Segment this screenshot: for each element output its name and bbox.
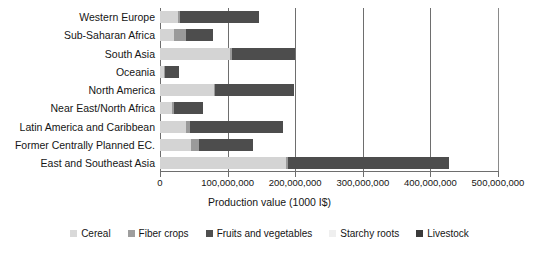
bar-stack bbox=[160, 29, 213, 41]
legend-item-cereal[interactable]: Cereal bbox=[70, 228, 110, 239]
bar-segment-cereal[interactable] bbox=[160, 121, 186, 133]
tick-label-500000000: 500,000,000 bbox=[472, 177, 525, 188]
bar-row[interactable] bbox=[160, 136, 498, 154]
category-label-north-america: North America bbox=[8, 81, 158, 99]
legend-item-fruits-and-vegetables[interactable]: Fruits and vegetables bbox=[206, 228, 313, 239]
legend-label-cereal: Cereal bbox=[81, 228, 110, 239]
category-label-sub-saharan-africa: Sub-Saharan Africa bbox=[8, 26, 158, 44]
x-axis-tick-labels: 0100,000,000200,000,000300,000,000400,00… bbox=[0, 177, 539, 191]
bar-stack bbox=[160, 157, 449, 169]
bar-segment-cereal[interactable] bbox=[160, 139, 191, 151]
tick-label-300000000: 300,000,000 bbox=[336, 177, 389, 188]
plot-area bbox=[160, 8, 498, 172]
bar-row[interactable] bbox=[160, 118, 498, 136]
gridline-500000000 bbox=[498, 8, 499, 172]
bar-segment-fruits-and-vegetables[interactable] bbox=[186, 29, 213, 41]
bar-segment-cereal[interactable] bbox=[160, 102, 172, 114]
category-label-near-east-north-africa: Near East/North Africa bbox=[8, 99, 158, 117]
legend-label-starchy-roots: Starchy roots bbox=[340, 228, 399, 239]
legend-swatch-livestock-icon bbox=[416, 230, 423, 237]
bar-segment-fruits-and-vegetables[interactable] bbox=[165, 66, 179, 78]
bar-segment-fruits-and-vegetables[interactable] bbox=[199, 139, 253, 151]
legend-item-livestock[interactable]: Livestock bbox=[416, 228, 469, 239]
chart-legend: Cereal Fiber crops Fruits and vegetables… bbox=[0, 228, 539, 239]
bar-segment-cereal[interactable] bbox=[160, 48, 230, 60]
legend-swatch-starchy-roots-icon bbox=[329, 230, 336, 237]
category-label-latin-america-and-caribbean: Latin America and Caribbean bbox=[8, 118, 158, 136]
bar-stack bbox=[160, 84, 294, 96]
category-label-western-europe: Western Europe bbox=[8, 8, 158, 26]
legend-item-fiber-crops[interactable]: Fiber crops bbox=[128, 228, 189, 239]
x-axis-title: Production value (1000 I$) bbox=[0, 196, 539, 208]
bar-stack bbox=[160, 102, 203, 114]
legend-label-livestock: Livestock bbox=[427, 228, 469, 239]
legend-swatch-fiber-crops-icon bbox=[128, 230, 135, 237]
category-label-east-and-southeast-asia: East and Southeast Asia bbox=[8, 154, 158, 172]
category-axis-labels: Western Europe Sub-Saharan Africa South … bbox=[8, 8, 158, 172]
bar-stack bbox=[160, 11, 259, 23]
bar-stack bbox=[160, 48, 295, 60]
bar-row[interactable] bbox=[160, 45, 498, 63]
bar-row[interactable] bbox=[160, 99, 498, 117]
bar-series-group bbox=[160, 8, 498, 172]
bar-segment-cereal[interactable] bbox=[160, 84, 214, 96]
bar-segment-fruits-and-vegetables[interactable] bbox=[174, 102, 202, 114]
bar-segment-fruits-and-vegetables[interactable] bbox=[288, 157, 449, 169]
bar-row[interactable] bbox=[160, 81, 498, 99]
bar-row[interactable] bbox=[160, 154, 498, 172]
bar-segment-fruits-and-vegetables[interactable] bbox=[232, 48, 295, 60]
bar-row[interactable] bbox=[160, 8, 498, 26]
legend-label-fruits-and-vegetables: Fruits and vegetables bbox=[217, 228, 313, 239]
bar-segment-cereal[interactable] bbox=[160, 11, 178, 23]
category-label-oceania: Oceania bbox=[8, 63, 158, 81]
bar-segment-fiber-crops[interactable] bbox=[174, 29, 186, 41]
bar-segment-fiber-crops[interactable] bbox=[191, 139, 198, 151]
category-label-former-centrally-planned-ec: Former Centrally Planned EC. bbox=[8, 136, 158, 154]
bar-segment-fruits-and-vegetables[interactable] bbox=[215, 84, 293, 96]
legend-swatch-cereal-icon bbox=[70, 230, 77, 237]
bar-segment-cereal[interactable] bbox=[160, 29, 174, 41]
bar-stack bbox=[160, 139, 253, 151]
bar-segment-fruits-and-vegetables[interactable] bbox=[190, 121, 283, 133]
bar-row[interactable] bbox=[160, 26, 498, 44]
bar-stack bbox=[160, 66, 179, 78]
tick-label-400000000: 400,000,000 bbox=[404, 177, 457, 188]
bar-stack bbox=[160, 121, 283, 133]
production-value-stacked-bar-chart: Western Europe Sub-Saharan Africa South … bbox=[0, 0, 539, 257]
plot-wrapper: Western Europe Sub-Saharan Africa South … bbox=[0, 0, 539, 190]
bar-row[interactable] bbox=[160, 63, 498, 81]
bar-segment-fruits-and-vegetables[interactable] bbox=[180, 11, 260, 23]
bar-segment-cereal[interactable] bbox=[160, 157, 286, 169]
tick-label-100000000: 100,000,000 bbox=[201, 177, 254, 188]
tick-label-0: 0 bbox=[157, 177, 162, 188]
tick-label-200000000: 200,000,000 bbox=[269, 177, 322, 188]
legend-item-starchy-roots[interactable]: Starchy roots bbox=[329, 228, 399, 239]
legend-swatch-fruits-and-vegetables-icon bbox=[206, 230, 213, 237]
category-label-south-asia: South Asia bbox=[8, 45, 158, 63]
legend-label-fiber-crops: Fiber crops bbox=[139, 228, 189, 239]
